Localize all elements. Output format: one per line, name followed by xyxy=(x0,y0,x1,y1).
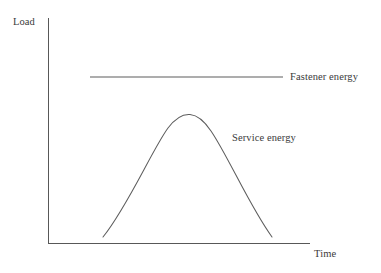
plot-area xyxy=(0,0,381,273)
service-energy-label: Service energy xyxy=(232,132,296,144)
y-axis-title: Load xyxy=(13,16,35,28)
fastener-energy-label: Fastener energy xyxy=(290,71,358,83)
chart-figure: Load Time Fastener energy Service energy xyxy=(0,0,381,273)
x-axis-title: Time xyxy=(314,248,336,260)
